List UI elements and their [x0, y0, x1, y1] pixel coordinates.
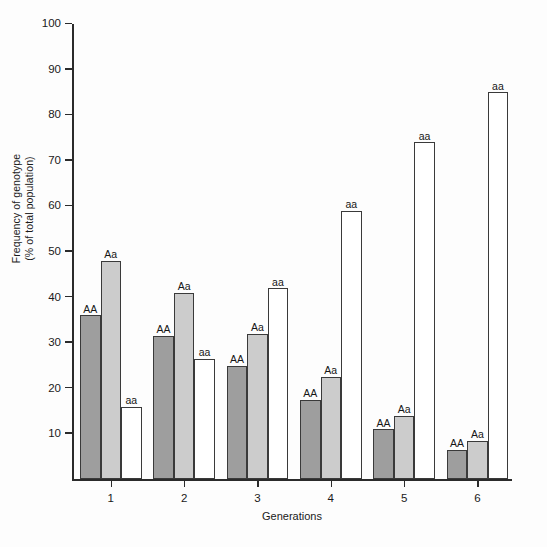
y-axis-tick: 10	[65, 432, 72, 433]
bar-aa-gen-2: aa	[194, 359, 215, 480]
bar-value-label: AA	[83, 303, 97, 315]
bar-value-label: AA	[230, 353, 244, 365]
bar-Aa-gen-1: Aa	[101, 261, 122, 480]
bar-AA-gen-4: AA	[300, 400, 321, 480]
x-axis-tick-label: 2	[181, 492, 187, 504]
bar-Aa-gen-6: Aa	[467, 441, 488, 480]
y-axis-tick-label: 10	[48, 427, 61, 439]
y-axis-tick-label: 70	[48, 154, 61, 166]
bar-value-label: AA	[157, 323, 171, 335]
bar-aa-gen-3: aa	[268, 288, 289, 479]
y-axis-tick-label: 20	[48, 382, 61, 394]
y-axis-tick: 40	[65, 296, 72, 297]
y-axis-tick: 80	[65, 114, 72, 115]
x-axis-tick	[184, 481, 185, 487]
bar-value-label: Aa	[324, 364, 337, 376]
y-axis-tick: 90	[65, 68, 72, 69]
bar-value-label: Aa	[251, 321, 264, 333]
x-axis-tick	[331, 481, 332, 487]
x-axis-tick	[477, 481, 478, 487]
y-axis-title: Frequency of genotype (% of total popula…	[10, 129, 35, 289]
y-axis-tick-label: 30	[48, 336, 61, 348]
bar-aa-gen-6: aa	[488, 92, 509, 479]
genotype-frequency-bar-chart: Frequency of genotype (% of total popula…	[0, 0, 547, 547]
bar-AA-gen-6: AA	[447, 450, 468, 480]
y-axis-tick: 60	[65, 205, 72, 206]
y-axis-tick-label: 40	[48, 291, 61, 303]
y-axis-line	[72, 24, 74, 481]
bar-value-label: Aa	[471, 428, 484, 440]
y-axis-tick-label: 60	[48, 199, 61, 211]
x-axis-tick-label: 4	[328, 492, 334, 504]
y-axis-tick: 20	[65, 387, 72, 388]
bar-Aa-gen-4: Aa	[321, 377, 342, 479]
x-axis-tick-label: 3	[254, 492, 260, 504]
bar-value-label: AA	[377, 417, 391, 429]
bar-value-label: Aa	[104, 248, 117, 260]
y-axis-tick-label: 80	[48, 108, 61, 120]
y-axis-tick: 50	[65, 250, 72, 251]
x-axis-tick-label: 6	[474, 492, 480, 504]
x-axis-tick	[404, 481, 405, 487]
x-axis-tick-label: 5	[401, 492, 407, 504]
x-axis-tick-label: 1	[108, 492, 114, 504]
bar-value-label: AA	[450, 437, 464, 449]
bar-aa-gen-1: aa	[121, 407, 142, 480]
bar-AA-gen-5: AA	[373, 429, 394, 479]
y-axis-tick: 70	[65, 159, 72, 160]
bar-Aa-gen-2: Aa	[174, 293, 195, 480]
bar-Aa-gen-3: Aa	[247, 334, 268, 480]
y-axis-tick: 100	[65, 23, 72, 24]
y-axis-tick: 30	[65, 341, 72, 342]
bar-value-label: aa	[345, 198, 357, 210]
plot-area: 102030405060708090100AAAaaa1AAAaaa2AAAaa…	[72, 24, 512, 481]
bar-value-label: aa	[272, 276, 284, 288]
bar-aa-gen-4: aa	[341, 211, 362, 480]
x-axis-title: Generations	[72, 510, 512, 522]
bar-AA-gen-3: AA	[227, 366, 248, 480]
bar-aa-gen-5: aa	[414, 142, 435, 479]
bar-value-label: aa	[419, 130, 431, 142]
bar-value-label: AA	[303, 387, 317, 399]
bar-value-label: Aa	[178, 280, 191, 292]
bar-value-label: Aa	[398, 403, 411, 415]
bar-value-label: aa	[492, 80, 504, 92]
bar-value-label: aa	[125, 394, 137, 406]
y-axis-tick-label: 50	[48, 245, 61, 257]
bar-AA-gen-2: AA	[153, 336, 174, 479]
bar-Aa-gen-5: Aa	[394, 416, 415, 480]
x-axis-tick	[111, 481, 112, 487]
bar-AA-gen-1: AA	[80, 315, 101, 479]
bar-value-label: aa	[199, 346, 211, 358]
x-axis-tick	[257, 481, 258, 487]
y-axis-tick-label: 100	[42, 17, 61, 29]
y-axis-tick-label: 90	[48, 63, 61, 75]
x-axis-line	[72, 479, 512, 481]
